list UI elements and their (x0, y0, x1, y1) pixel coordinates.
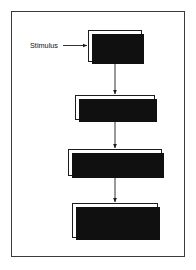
node-hypothalamus-line-2: (emotional expression) (77, 163, 152, 172)
node-hypothalamus: Hypothalamus (emotional expression) (68, 149, 162, 176)
stimulus-label: Stimulus (30, 41, 58, 50)
node-peripheral-arousal: Peripheral arousal + Muscle activity (72, 203, 158, 238)
node-thalamus: Thalamus (emotional feeling) (75, 95, 155, 120)
node-cortex-line-2: Perception (97, 46, 133, 55)
node-peripheral-line-3: Muscle activity (91, 224, 140, 233)
node-thalamus-line-2: (emotional feeling) (84, 108, 145, 117)
flowchart-canvas: Stimulus CORTEX Perception Thalamus (emo… (0, 0, 196, 270)
node-cortex: CORTEX Perception (88, 30, 142, 62)
